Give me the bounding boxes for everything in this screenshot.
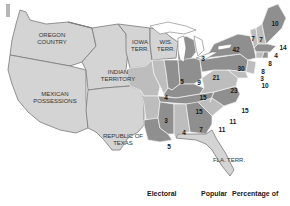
- label-oregon-line1: OREGON: [39, 32, 66, 38]
- label-wis-line1: WIS.: [160, 39, 173, 45]
- label-oregon-line2: COUNTRY: [37, 39, 67, 45]
- label-wis-line2: TERR.: [157, 46, 175, 52]
- label-florida: FLA. TERR.: [213, 157, 246, 163]
- ev-maine: 10: [271, 20, 279, 27]
- ev-massachusetts: 14: [279, 44, 287, 51]
- label-iowa-line1: IOWA: [132, 39, 148, 45]
- ev-indiana: 9: [197, 79, 201, 86]
- legend-percentage: Percentage of: [232, 190, 278, 197]
- ev-new-jersey: 8: [261, 68, 265, 75]
- legend-popular: Popular: [201, 190, 227, 197]
- state-new-jersey: [246, 60, 256, 74]
- ev-maryland: 10: [261, 82, 269, 89]
- ev-georgia: 11: [219, 126, 226, 133]
- ev-michigan: 3: [201, 55, 205, 62]
- ev-arkansas: 3: [164, 117, 168, 124]
- label-mexican-line1: MEXICAN: [41, 91, 68, 97]
- ev-new-york: 42: [232, 46, 240, 53]
- ev-tennessee: 15: [195, 108, 203, 115]
- ev-rhode-island: 4: [274, 52, 278, 59]
- ev-missouri: 4: [164, 94, 168, 101]
- label-indian-line2: TERRITORY: [101, 76, 135, 82]
- legend-electoral: Electoral: [147, 190, 177, 197]
- ev-connecticut: 8: [268, 60, 272, 67]
- ev-alabama: 7: [199, 126, 203, 133]
- state-massachusetts: [254, 44, 276, 52]
- label-iowa-line2: TERR.: [131, 46, 149, 52]
- ev-south-carolina: 11: [230, 118, 237, 125]
- ev-illinois: 5: [180, 78, 184, 85]
- ev-pennsylvania: 30: [237, 65, 245, 72]
- ev-louisiana: 5: [167, 143, 171, 150]
- election-map: OREGON COUNTRY INDIAN TERRITORY IOWA TER…: [0, 0, 290, 206]
- label-texas-line1: REPUBLIC OF: [103, 133, 143, 139]
- label-texas-line2: TEXAS: [113, 140, 133, 146]
- ev-vermont: 7: [251, 35, 255, 42]
- ev-north-carolina: 15: [241, 107, 249, 114]
- label-indian-line1: INDIAN: [108, 69, 128, 75]
- region-florida-territory: [176, 130, 234, 176]
- ev-delaware: 3: [260, 75, 264, 82]
- ev-kentucky: 15: [199, 94, 207, 101]
- ev-ohio: 21: [212, 74, 220, 81]
- ev-new-hampshire: 7: [259, 36, 263, 43]
- label-mexican-line2: POSSESSIONS: [33, 98, 76, 104]
- ev-virginia: 23: [230, 87, 238, 94]
- ev-mississippi: 4: [182, 129, 186, 136]
